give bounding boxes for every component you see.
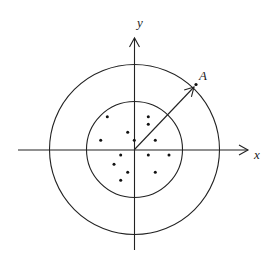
diagram-canvas: x y A <box>0 0 275 263</box>
scatter-point <box>126 131 129 134</box>
scatter-point <box>113 163 116 166</box>
scatter-point <box>147 154 150 157</box>
y-axis-label: y <box>135 15 143 30</box>
scatter-point <box>99 139 102 142</box>
point-a-label: A <box>198 68 207 83</box>
scatter-point <box>106 115 109 118</box>
scatter-point <box>168 154 171 157</box>
x-axis-label: x <box>253 147 260 162</box>
scatter-point <box>154 139 157 142</box>
scatter-point <box>133 139 136 142</box>
scatter-point <box>119 154 122 157</box>
scatter-point <box>154 171 157 174</box>
scatter-point <box>147 123 150 126</box>
point-a-dot <box>194 83 197 86</box>
scatter-point <box>119 179 122 182</box>
vector-to-point-a <box>135 87 195 150</box>
scatter-point <box>126 171 129 174</box>
scatter-point <box>147 115 150 118</box>
